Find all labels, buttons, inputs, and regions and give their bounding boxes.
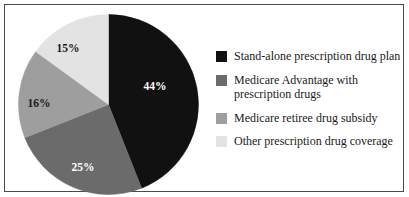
legend-item: Stand-alone prescription drug plan — [216, 49, 408, 64]
legend-swatch-retiree-subsidy — [216, 113, 227, 124]
pie-chart-svg: 44%25%16%15% — [18, 14, 199, 195]
legend-item: Other prescription drug coverage — [216, 134, 408, 149]
legend-item-label: Medicare retiree drug subsidy — [234, 111, 378, 126]
legend-swatch-stand-alone — [216, 51, 227, 62]
pie-slice-label: 16% — [28, 97, 51, 109]
legend-item-label: Stand-alone prescription drug plan — [234, 49, 400, 64]
legend-swatch-other-coverage — [216, 136, 227, 147]
legend-item: Medicare retiree drug subsidy — [216, 111, 408, 126]
legend-item: Medicare Advantage with prescription dru… — [216, 73, 408, 102]
figure-border: 44%25%16%15% Stand-alone prescription dr… — [4, 4, 404, 192]
pie-chart-area: 44%25%16%15% — [18, 14, 199, 195]
legend-swatch-medicare-advantage — [216, 75, 227, 86]
pie-slice-label: 25% — [72, 161, 95, 173]
pie-slice-label: 15% — [57, 42, 80, 54]
pie-chart-figure: 44%25%16%15% Stand-alone prescription dr… — [0, 0, 409, 197]
chart-legend: Stand-alone prescription drug planMedica… — [216, 49, 408, 158]
pie-slice-label: 44% — [144, 80, 167, 92]
legend-item-label: Medicare Advantage with prescription dru… — [234, 73, 358, 102]
legend-item-label: Other prescription drug coverage — [234, 134, 393, 149]
